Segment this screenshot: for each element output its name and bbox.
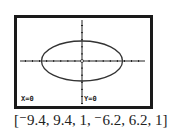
cursor-y-readout: Y=0 [84, 96, 97, 103]
trace-cursor [81, 60, 84, 63]
graph-plot [17, 18, 150, 106]
window-settings-caption: [⁻9.4, 9.4, 1, ⁻6.2, 6.2, 1] [14, 111, 168, 129]
cursor-x-readout: X=0 [21, 96, 34, 103]
calculator-screen: X=0 Y=0 [14, 15, 153, 109]
